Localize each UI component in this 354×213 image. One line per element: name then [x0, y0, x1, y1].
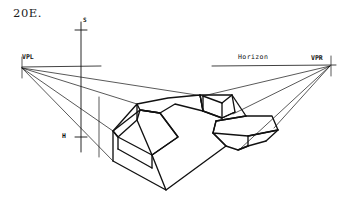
right-slab-bottom-front-edge	[248, 141, 266, 146]
upper-block-front-face	[137, 110, 178, 155]
upper-block-left-face	[113, 104, 137, 137]
base-vee-right-edge	[166, 146, 226, 190]
horizon-line-label: Horizon	[238, 54, 268, 61]
horizon-height-label: H	[62, 133, 66, 140]
perspective-drawing	[0, 0, 354, 213]
body-notch-drop	[213, 121, 216, 133]
perspective-solid	[113, 95, 278, 190]
vpr-ray-slab-edge	[274, 66, 330, 128]
vpr-ray-base	[240, 66, 330, 149]
right-slab-top-front-edge	[248, 130, 278, 136]
vanishing-point-right-label: VPR	[311, 55, 323, 62]
right-block-top-back-edge	[203, 96, 222, 103]
vpl-ray-top-back	[22, 68, 203, 96]
vanishing-point-left-label: VPL	[22, 54, 34, 61]
horizon-line-left-segment	[22, 66, 101, 67]
vpr-ray-slab-top	[233, 66, 330, 114]
right-block-bottom-edge	[203, 111, 235, 118]
right-slab-top-face	[213, 116, 278, 136]
drawing-canvas: 20E. S H VPL VPR Horizon	[0, 0, 354, 213]
horizon-line-right-segment	[212, 65, 336, 66]
station-point-label: S	[83, 17, 87, 23]
plate-number-label: 20E.	[13, 8, 42, 20]
vpr-ray-top-back	[203, 66, 330, 96]
right-block-top-crease	[222, 95, 232, 103]
base-vee-inner-edge	[213, 133, 226, 146]
upper-block-top-face	[137, 95, 203, 113]
